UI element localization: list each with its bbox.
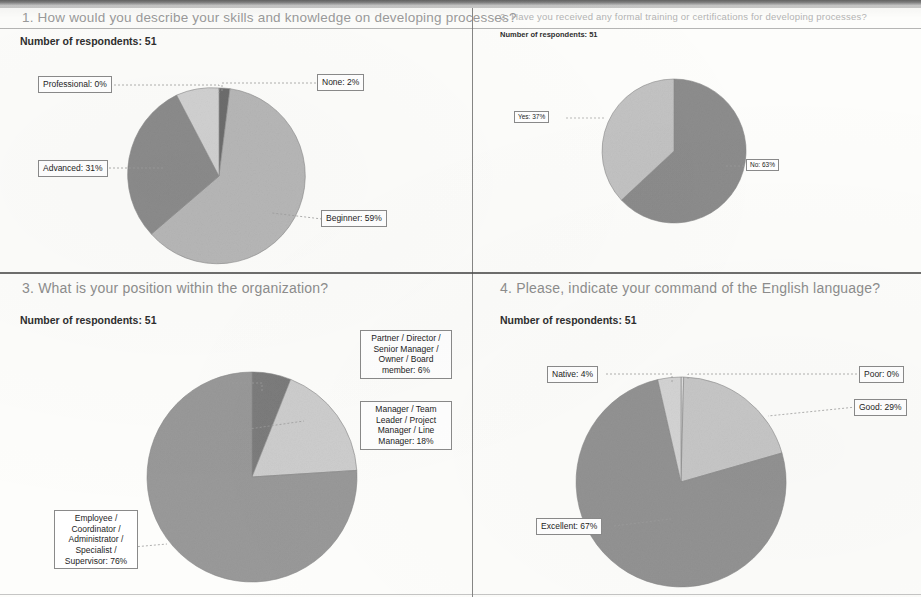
- callout-beginner: Beginner: 59%: [321, 210, 387, 227]
- callout-excellent: Excellent: 67%: [536, 518, 602, 535]
- callout-native: Native: 4%: [547, 366, 598, 383]
- leader-line-poor: [688, 374, 861, 380]
- pie-chart-2-svg: [476, 8, 917, 270]
- chart-grid: 1. How would you describe your skills an…: [0, 8, 921, 597]
- callout-good: Good: 29%: [854, 399, 907, 416]
- callout-poor: Poor: 0%: [859, 366, 904, 383]
- panel-question-4: 4. Please, indicate your command of the …: [476, 276, 917, 597]
- callout-no: No: 63%: [746, 159, 779, 171]
- callout-yes: Yes: 37%: [514, 111, 549, 123]
- vertical-divider: [472, 8, 473, 597]
- horizontal-divider: [0, 272, 921, 274]
- callout-partner: Partner / Director / Senior Manager / Ow…: [360, 330, 452, 379]
- callout-none: None: 2%: [317, 74, 364, 91]
- pie-chart-4-svg: [476, 276, 917, 597]
- panel-question-3: 3. What is your position within the orga…: [4, 276, 470, 597]
- panel-question-1: 1. How would you describe your skills an…: [4, 8, 470, 270]
- callout-professional: Professional: 0%: [38, 76, 112, 93]
- leader-line-good: [768, 407, 856, 416]
- callout-advanced: Advanced: 31%: [38, 160, 108, 177]
- callout-employee: Employee / Coordinator / Administrator /…: [54, 510, 138, 569]
- pie-chart-4: Native: 4% Poor: 0% Good: 29% Excellent:…: [476, 276, 917, 597]
- panel-question-2: 2. Have you received any formal training…: [476, 8, 917, 270]
- pie-chart-2: Yes: 37% No: 63%: [476, 8, 917, 270]
- pie-chart-3: Partner / Director / Senior Manager / Ow…: [4, 276, 470, 597]
- pie-chart-1-svg: [4, 8, 470, 270]
- pie-chart-1: Professional: 0% None: 2% Advanced: 31% …: [4, 8, 470, 270]
- callout-manager: Manager / Team Leader / Project Manager …: [360, 401, 452, 450]
